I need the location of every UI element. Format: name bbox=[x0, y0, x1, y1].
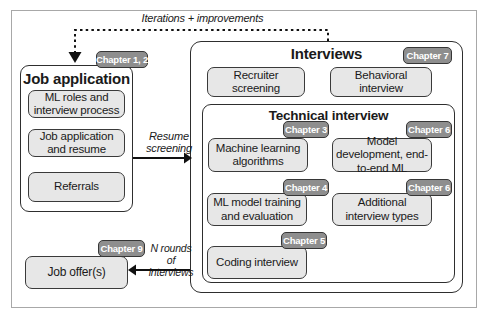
behavioral-interview-item: Behavioral interview bbox=[330, 67, 432, 97]
job-offer-box: Job offer(s) bbox=[25, 256, 128, 289]
ml-roles-item: ML roles and interview process bbox=[28, 90, 125, 118]
figure: Iterations + improvements Job applicatio… bbox=[0, 0, 484, 316]
chapter-1-2-badge: Chapter 1, 2 bbox=[96, 51, 148, 68]
coding-interview-item: Coding interview bbox=[207, 246, 307, 279]
chapter-6-badge-additional: Chapter 6 bbox=[406, 179, 452, 196]
chapter-9-badge: Chapter 9 bbox=[98, 240, 145, 257]
job-application-resume-item: Job application and resume bbox=[28, 129, 125, 157]
ml-model-training-item: ML model training and evaluation bbox=[207, 193, 307, 226]
chapter-3-badge: Chapter 3 bbox=[283, 121, 329, 138]
chapter-4-badge: Chapter 4 bbox=[283, 179, 329, 196]
iterations-label: Iterations + improvements bbox=[140, 12, 265, 24]
referrals-item: Referrals bbox=[28, 172, 125, 202]
chapter-7-badge: Chapter 7 bbox=[403, 47, 452, 64]
job-application-title: Job application bbox=[21, 70, 132, 87]
chapter-6-badge-model-dev: Chapter 6 bbox=[406, 121, 452, 138]
chapter-5-badge: Chapter 5 bbox=[281, 232, 327, 249]
recruiter-screening-item: Recruiter screening bbox=[207, 67, 305, 97]
model-development-item: Model development, end-to-end ML bbox=[332, 138, 432, 172]
additional-interview-types-item: Additional interview types bbox=[332, 193, 432, 226]
machine-learning-algorithms-item: Machine learning algorithms bbox=[208, 138, 308, 172]
n-rounds-label: N rounds of interviews bbox=[146, 243, 196, 278]
resume-screening-label: Resume screening bbox=[138, 130, 200, 155]
